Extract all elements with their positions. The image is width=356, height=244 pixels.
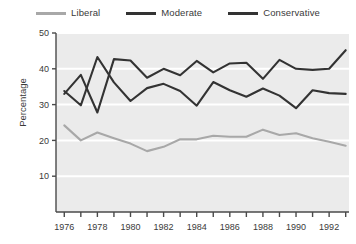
x-tick-label: 1976 — [54, 222, 74, 232]
x-tick-label: 1988 — [253, 222, 273, 232]
chart-container: Liberal Moderate Conservative Percentage… — [0, 0, 356, 244]
y-tick-label: 10 — [39, 171, 49, 181]
y-tick-label: 40 — [39, 64, 49, 74]
x-tick-label: 1982 — [154, 222, 174, 232]
x-tick-label: 1980 — [120, 222, 140, 232]
x-tick-label: 1978 — [87, 222, 107, 232]
y-tick-label: 30 — [39, 100, 49, 110]
x-tick-labels-group: 197619781980198219841986198819901992 — [54, 222, 339, 232]
x-tick-label: 1990 — [286, 222, 306, 232]
x-tick-label: 1986 — [220, 222, 240, 232]
chart-plot-area: 1020304050 19761978198019821984198619881… — [0, 0, 356, 244]
y-tick-label: 50 — [39, 28, 49, 38]
y-tick-labels-group: 1020304050 — [39, 28, 49, 181]
x-tick-label: 1984 — [187, 222, 207, 232]
x-tick-label: 1992 — [319, 222, 339, 232]
y-tick-label: 20 — [39, 136, 49, 146]
